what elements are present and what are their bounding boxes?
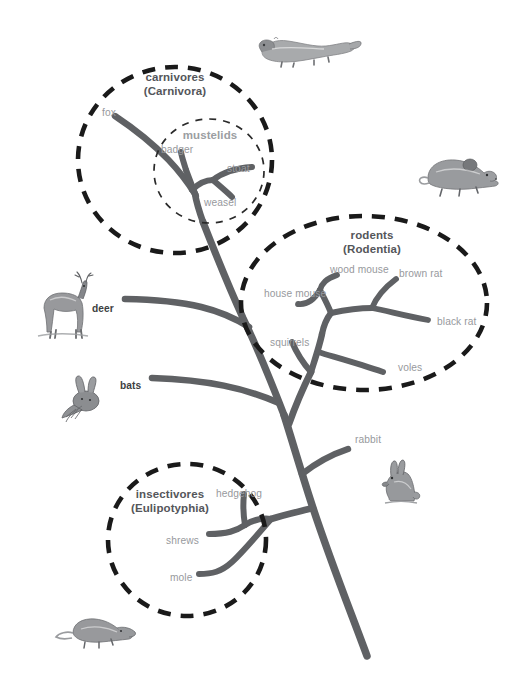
bat-illustration — [62, 376, 99, 422]
tip-label-rabbit: rabbit — [355, 434, 381, 446]
branch-weasel — [213, 180, 232, 197]
branch-murid-node — [322, 313, 331, 334]
tip-label-deer: deer — [92, 303, 114, 315]
stoat-illustration — [259, 38, 361, 68]
tip-label-voles: voles — [398, 362, 422, 374]
tip-label-hedgehog: hedgehog — [216, 488, 262, 500]
branch-rabbit — [302, 449, 348, 474]
tip-label-wood-mouse: wood mouse — [330, 264, 389, 276]
group-label-scientific-carnivores: (Carnivora) — [144, 84, 206, 98]
group-label-rodents: rodents(Rodentia) — [343, 228, 401, 256]
tip-label-stoat: stoat — [227, 163, 250, 175]
rabbit-illustration — [382, 460, 420, 503]
branch-deer — [125, 299, 249, 327]
branch-rodent-stem — [289, 372, 311, 424]
branch-black-rat — [372, 308, 428, 320]
tip-label-bats: bats — [120, 380, 141, 392]
tip-label-squirrels: squirrels — [270, 337, 309, 349]
tip-label-house-mouse: house mouse — [264, 288, 326, 300]
tip-label-fox: fox — [102, 107, 116, 119]
deer-illustration — [38, 272, 93, 338]
rat-illustration — [420, 159, 499, 196]
tip-label-shrews: shrews — [166, 535, 199, 547]
branch-insectivore-stem — [271, 508, 313, 519]
group-label-common-insectivores: insectivores — [131, 487, 209, 501]
branch-voles — [318, 352, 383, 372]
tip-label-brown-rat: brown rat — [399, 268, 442, 280]
group-label-common-rodents: rodents — [343, 228, 401, 242]
branch-bats — [152, 378, 279, 403]
branch-brown-rat — [372, 279, 396, 308]
branch-trunk — [284, 415, 367, 656]
group-label-carnivores: carnivores(Carnivora) — [144, 70, 206, 98]
shrew-illustration — [56, 619, 136, 648]
branch-rat-stem — [331, 308, 372, 313]
branch-shrews — [209, 525, 245, 534]
tip-label-weasel: weasel — [204, 197, 236, 209]
group-label-scientific-rodents: (Rodentia) — [343, 242, 401, 256]
phylogenetic-tree-diagram: carnivores(Carnivora)mustelidsrodents(Ro… — [0, 0, 516, 687]
branch-weasel-stoat-stem — [192, 180, 213, 190]
tip-label-badger: badger — [161, 144, 193, 156]
group-label-common-mustelids: mustelids — [183, 128, 238, 142]
tree-illustration — [0, 0, 516, 687]
group-label-common-carnivores: carnivores — [144, 70, 206, 84]
group-label-mustelids: mustelids — [183, 128, 238, 142]
group-label-insectivores: insectivores(Eulipotyphia) — [131, 487, 209, 515]
tip-label-mole: mole — [170, 572, 192, 584]
tip-label-black-rat: black rat — [437, 316, 476, 328]
group-label-scientific-insectivores: (Eulipotyphia) — [131, 501, 209, 515]
